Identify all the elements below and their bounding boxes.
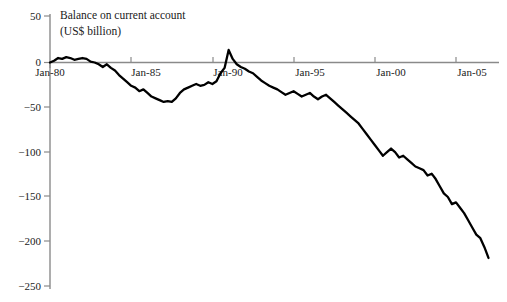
data-series-line [50, 50, 488, 258]
y-tick-group [44, 16, 50, 286]
y-tick-label-minus200: −200 [18, 235, 41, 247]
y-tick-label-50: 50 [30, 10, 42, 22]
x-tick-label-jan95: Jan-95 [295, 66, 325, 78]
x-tick-label-jan85: Jan-85 [131, 66, 161, 78]
y-tick-label-minus150: −150 [18, 190, 41, 202]
y-tick-label-minus100: −100 [18, 146, 41, 158]
x-tick-label-jan80: Jan-80 [35, 66, 65, 78]
chart-container: 50 0 −50 −100 −150 −200 −250 Jan-80 Jan-… [0, 0, 507, 302]
chart-canvas: 50 0 −50 −100 −150 −200 −250 Jan-80 Jan-… [0, 0, 507, 302]
x-tick-label-jan00: Jan-00 [376, 66, 406, 78]
x-tick-label-jan05: Jan-05 [457, 66, 487, 78]
y-tick-label-minus50: −50 [24, 101, 42, 113]
chart-title: Balance on current account [60, 9, 186, 21]
chart-subtitle: (US$ billion) [60, 25, 121, 38]
y-tick-label-minus250: −250 [18, 280, 41, 292]
